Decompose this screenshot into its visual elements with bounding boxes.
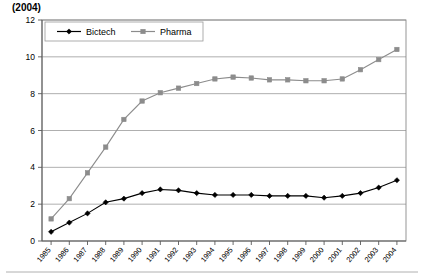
data-point-marker (85, 211, 90, 216)
data-point-marker (67, 196, 71, 200)
data-point-marker (377, 57, 381, 61)
data-point-marker (49, 217, 53, 221)
y-tick-label: 8 (30, 89, 35, 99)
data-point-marker (231, 192, 236, 197)
data-point-marker (249, 76, 253, 80)
y-tick-label: 6 (30, 126, 35, 136)
data-point-marker (267, 78, 271, 82)
x-tick-label: 1990 (126, 246, 144, 265)
data-point-marker (104, 145, 108, 149)
x-axis-ticks: 1985198619871988198919901991199219931994… (35, 241, 398, 264)
data-point-marker (140, 191, 145, 196)
legend-label-bictech[interactable]: Bictech (86, 27, 116, 37)
series-line (51, 180, 397, 232)
data-point-marker (122, 117, 126, 121)
x-tick-label: 2001 (326, 246, 344, 265)
data-point-marker (212, 192, 217, 197)
data-point-marker (213, 77, 217, 81)
data-point-marker (304, 79, 308, 83)
data-point-marker (194, 191, 199, 196)
data-point-marker (49, 229, 54, 234)
data-point-marker (267, 193, 272, 198)
x-tick-label: 1992 (162, 246, 180, 265)
data-series (49, 47, 400, 234)
x-tick-label: 1993 (181, 246, 199, 265)
x-tick-label: 1991 (144, 246, 162, 265)
x-tick-label: 1994 (199, 246, 217, 265)
chart-legend: BictechPharma (45, 22, 203, 41)
line-chart-svg: 024681012 198519861987198819891990199119… (0, 0, 424, 277)
x-tick-label: 1986 (53, 246, 71, 265)
data-point-marker (303, 193, 308, 198)
y-tick-label: 12 (26, 15, 36, 25)
data-point-marker (231, 75, 235, 79)
data-point-marker (286, 78, 290, 82)
data-point-marker (85, 171, 89, 175)
data-point-marker (140, 99, 144, 103)
data-point-marker (340, 193, 345, 198)
plot-area: 024681012 198519861987198819891990199119… (0, 0, 424, 277)
data-point-marker (158, 91, 162, 95)
x-tick-label: 2000 (308, 246, 326, 265)
x-tick-label: 1995 (217, 246, 235, 265)
y-tick-label: 0 (30, 236, 35, 246)
series-bictech (49, 178, 400, 235)
y-tick-label: 2 (30, 199, 35, 209)
data-point-marker (141, 29, 145, 33)
data-point-marker (395, 47, 399, 51)
x-tick-label: 1987 (71, 246, 89, 265)
y-axis-ticks: 024681012 (26, 15, 42, 246)
data-point-marker (376, 185, 381, 190)
data-point-marker (358, 191, 363, 196)
y-tick-label: 10 (26, 52, 36, 62)
data-point-marker (158, 187, 163, 192)
series-line (51, 49, 397, 218)
gridlines (42, 20, 406, 204)
y-tick-label: 4 (30, 162, 35, 172)
data-point-marker (394, 178, 399, 183)
chart-figure: (2004) 024681012 19851986198719881989199… (0, 0, 424, 277)
data-point-marker (67, 220, 72, 225)
x-tick-label: 1997 (253, 246, 271, 265)
data-point-marker (176, 86, 180, 90)
x-tick-label: 1988 (90, 246, 108, 265)
x-tick-label: 1999 (290, 246, 308, 265)
data-point-marker (340, 77, 344, 81)
data-point-marker (176, 188, 181, 193)
x-tick-label: 1998 (272, 246, 290, 265)
x-tick-label: 1989 (108, 246, 126, 265)
x-tick-label: 2004 (381, 246, 399, 265)
x-tick-label: 1996 (235, 246, 253, 265)
data-point-marker (322, 79, 326, 83)
x-tick-label: 1985 (35, 246, 53, 265)
x-tick-label: 2003 (363, 246, 381, 265)
data-point-marker (195, 81, 199, 85)
legend-label-pharma[interactable]: Pharma (160, 27, 192, 37)
data-point-marker (322, 195, 327, 200)
data-point-marker (249, 192, 254, 197)
x-tick-label: 2002 (344, 246, 362, 265)
data-point-marker (121, 196, 126, 201)
data-point-marker (358, 68, 362, 72)
data-point-marker (285, 193, 290, 198)
